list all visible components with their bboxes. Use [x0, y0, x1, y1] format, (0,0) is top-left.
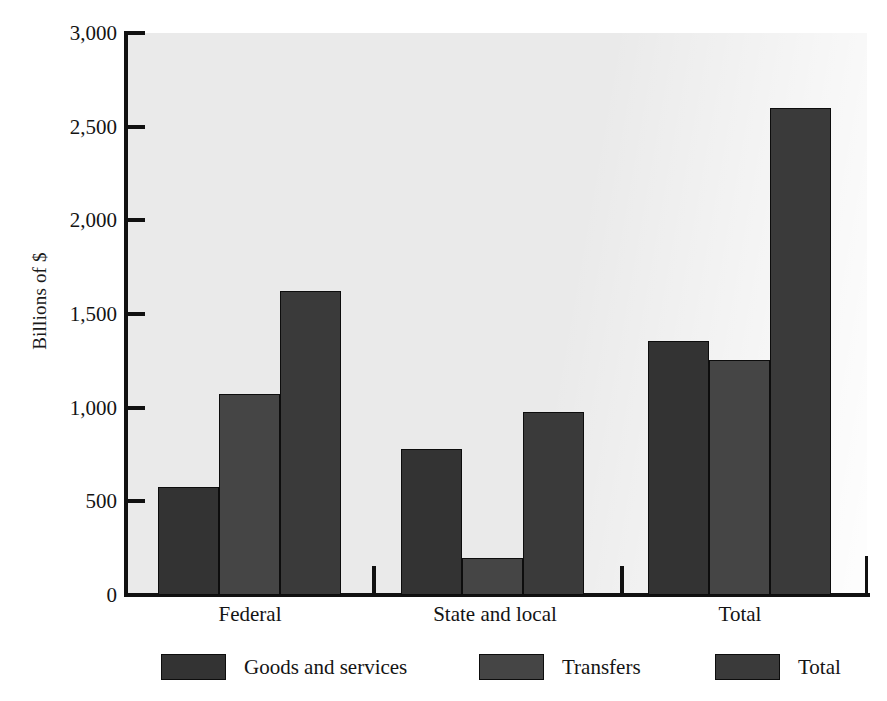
legend-item[interactable]: Goods and services: [161, 650, 407, 684]
legend-item[interactable]: Transfers: [479, 650, 641, 684]
legend-label: Total: [798, 655, 841, 680]
legend-label: Transfers: [562, 655, 641, 680]
bar: [219, 394, 280, 595]
y-axis-tick-label: 2,000: [9, 208, 117, 233]
bar: [401, 449, 462, 595]
y-axis-tick-label: 500: [9, 489, 117, 514]
y-axis-tick-label: 1,000: [9, 395, 117, 420]
y-axis-tick-label: 0: [9, 583, 117, 608]
y-axis-tick: [128, 312, 145, 316]
chart-legend: Goods and servicesTransfersTotal: [0, 650, 887, 690]
y-axis-tick: [128, 499, 145, 503]
y-axis-tick-label: 2,500: [9, 114, 117, 139]
x-axis-group-separator-tick: [372, 566, 376, 594]
x-axis-category-label: Federal: [219, 602, 282, 627]
y-axis-tick: [128, 406, 145, 410]
legend-label: Goods and services: [244, 655, 407, 680]
bar-chart-figure: Billions of $ 05001,0001,5002,0002,5003,…: [0, 0, 887, 701]
bar: [158, 487, 219, 595]
y-axis-tick-label: 1,500: [9, 302, 117, 327]
x-axis-category-label: State and local: [433, 602, 557, 627]
x-axis-group-separator-tick: [620, 566, 624, 594]
bar: [709, 360, 770, 595]
legend-swatch-icon: [161, 654, 226, 680]
legend-swatch-icon: [715, 654, 780, 680]
legend-item[interactable]: Total: [715, 650, 841, 684]
bar: [462, 558, 523, 595]
bar: [280, 291, 341, 595]
bar: [648, 341, 709, 595]
y-axis-tick: [128, 218, 145, 222]
y-axis-tick-label: 3,000: [9, 21, 117, 46]
legend-swatch-icon: [479, 654, 544, 680]
y-axis-tick: [128, 125, 145, 129]
right-axis-stub: [865, 556, 868, 596]
bar: [523, 412, 584, 595]
y-axis-tick: [128, 31, 145, 35]
bar: [770, 108, 831, 595]
y-axis-tick: [128, 593, 145, 597]
x-axis-category-label: Total: [719, 602, 762, 627]
